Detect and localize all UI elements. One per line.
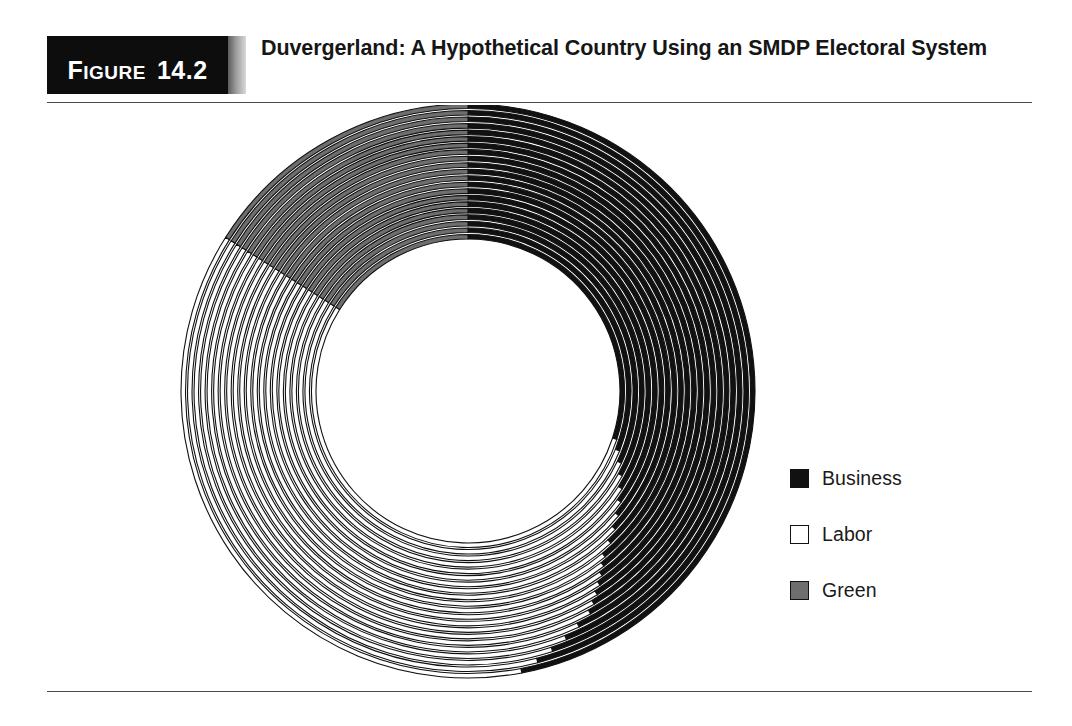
legend-label-labor: Labor <box>822 523 872 546</box>
legend-swatch-green <box>790 581 809 600</box>
legend-label-green: Green <box>822 579 877 602</box>
header-divider-rule <box>47 102 1032 103</box>
ring-segment <box>305 304 620 554</box>
legend-item-business: Business <box>790 466 990 490</box>
legend-label-business: Business <box>822 467 902 490</box>
figure-number-badge: FIGURE 14.2 <box>47 36 228 94</box>
legend-item-labor: Labor <box>790 522 990 546</box>
figure-label-lead: F <box>67 56 83 84</box>
legend-item-green: Green <box>790 578 990 602</box>
figure-badge-gradient-bar <box>228 36 246 94</box>
figure-number-badge-inner: FIGURE 14.2 <box>67 56 207 85</box>
figure-container: FIGURE 14.2 Duvergerland: A Hypothetical… <box>0 0 1072 726</box>
chart-legend: Business Labor Green <box>790 466 990 634</box>
ring-chart-svg <box>172 105 772 685</box>
figure-label-rest: IGURE <box>83 62 146 83</box>
legend-swatch-labor <box>790 525 809 544</box>
concentric-ring-chart <box>172 105 772 685</box>
legend-swatch-business <box>790 469 809 488</box>
figure-title: Duvergerland: A Hypothetical Country Usi… <box>261 34 1001 63</box>
figure-number: 14.2 <box>157 56 208 85</box>
footer-divider-rule <box>47 691 1032 692</box>
figure-header: FIGURE 14.2 Duvergerland: A Hypothetical… <box>47 36 1032 96</box>
figure-label: FIGURE <box>67 56 145 85</box>
